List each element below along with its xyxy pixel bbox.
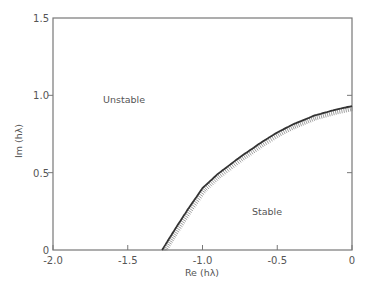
x-tick-label: -1.5	[118, 255, 138, 266]
y-tick-label: 0	[43, 245, 49, 256]
y-axis-label: Im (hλ)	[13, 124, 24, 158]
x-tick-label: -0.5	[267, 255, 287, 266]
y-tick-label: 1.0	[33, 90, 49, 101]
y-tick-label: 0.5	[33, 168, 49, 179]
y-tick-label: 1.5	[33, 13, 49, 24]
x-tick-label: -2.0	[43, 255, 63, 266]
x-axis-ticks: -2.0-1.5-1.0-0.50	[43, 245, 355, 266]
x-axis-label: Re (hλ)	[185, 267, 219, 278]
x-tick-label: 0	[349, 255, 355, 266]
stability-chart: -2.0-1.5-1.0-0.50 00.51.01.5 Unstable St…	[0, 0, 368, 293]
stability-boundary-curve	[162, 106, 352, 250]
stable-region-label: Stable	[252, 206, 282, 217]
plot-frame	[53, 18, 352, 250]
unstable-region-label: Unstable	[103, 94, 145, 105]
x-tick-label: -1.0	[193, 255, 213, 266]
y-axis-ticks: 00.51.01.5	[33, 13, 352, 256]
